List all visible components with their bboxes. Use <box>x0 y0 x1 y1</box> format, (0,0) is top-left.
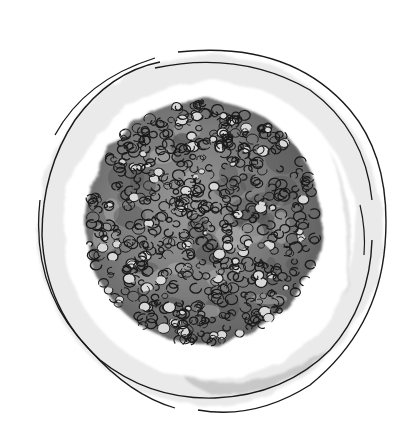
food-mound <box>85 99 321 345</box>
plate-illustration <box>0 0 409 444</box>
illustration-canvas <box>0 0 409 444</box>
